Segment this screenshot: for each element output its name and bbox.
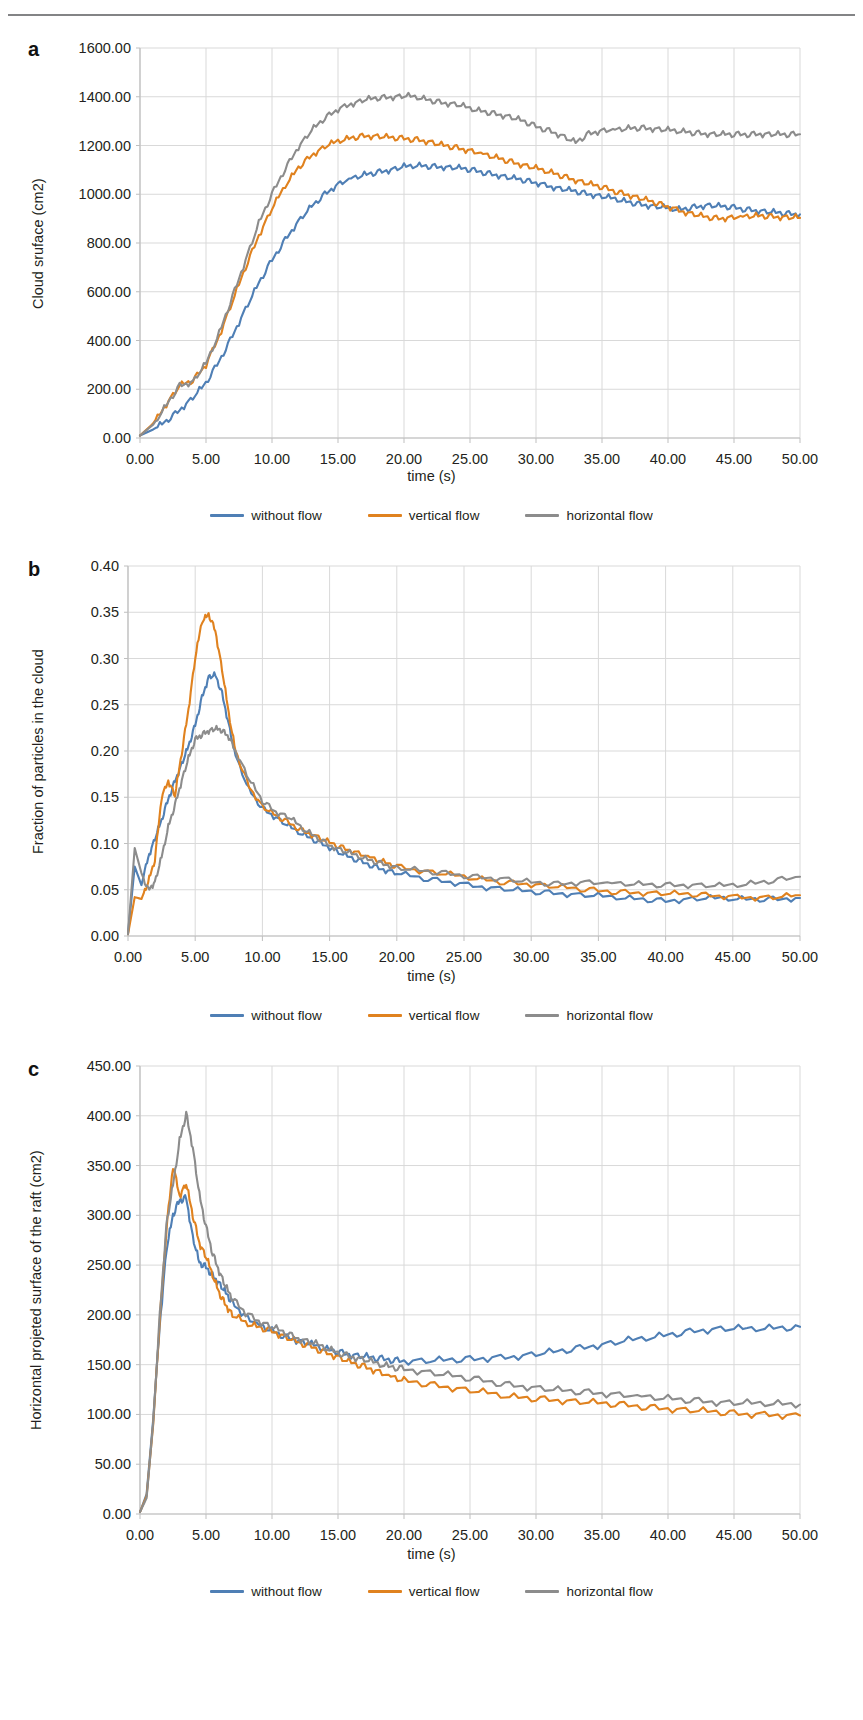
panel-b-y-tick-label-8: 0.40 — [91, 558, 119, 574]
panel-b-x-tick-label-0: 0.00 — [114, 949, 142, 965]
panel-c-legend-label-1: vertical flow — [409, 1584, 480, 1599]
panel-b-x-tick-label-7: 35.00 — [580, 949, 616, 965]
panel-c-y-tick-label-8: 400.00 — [87, 1108, 131, 1124]
panel-c-legend: without flowvertical flowhorizontal flow — [0, 1584, 863, 1599]
panel-a-y-tick-label-2: 400.00 — [87, 333, 131, 349]
panel-a-y-tick-label-4: 800.00 — [87, 235, 131, 251]
panel-a-legend-swatch-2 — [525, 514, 559, 517]
panel-a-x-tick-label-4: 20.00 — [386, 451, 422, 467]
panel-c-x-tick-label-8: 40.00 — [650, 1527, 686, 1543]
panel-b-plot: 0.000.050.100.150.200.250.300.350.400.00… — [0, 548, 863, 988]
panel-b-legend: without flowvertical flowhorizontal flow — [0, 1008, 863, 1023]
panel-a: a Cloud sruface (cm2) 0.00200.00400.0060… — [0, 30, 863, 545]
panel-c-x-tick-label-5: 25.00 — [452, 1527, 488, 1543]
panel-a-legend-vertical-flow: vertical flow — [368, 508, 480, 523]
panel-c-x-tick-label-6: 30.00 — [518, 1527, 554, 1543]
panel-b-legend-without-flow: without flow — [210, 1008, 322, 1023]
panel-b-legend-label-1: vertical flow — [409, 1008, 480, 1023]
panel-b-x-tick-label-5: 25.00 — [446, 949, 482, 965]
panel-c-legend-swatch-2 — [525, 1590, 559, 1593]
panel-c-y-tick-label-3: 150.00 — [87, 1357, 131, 1373]
panel-b-y-tick-label-2: 0.10 — [91, 836, 119, 852]
panel-c-legend-label-2: horizontal flow — [566, 1584, 652, 1599]
panel-b-x-tick-label-3: 15.00 — [311, 949, 347, 965]
panel-c-x-tick-label-4: 20.00 — [386, 1527, 422, 1543]
panel-c-y-tick-label-4: 200.00 — [87, 1307, 131, 1323]
panel-c-y-tick-label-5: 250.00 — [87, 1257, 131, 1273]
panel-c-legend-vertical-flow: vertical flow — [368, 1584, 480, 1599]
panel-c-x-tick-label-2: 10.00 — [254, 1527, 290, 1543]
figure-page: a Cloud sruface (cm2) 0.00200.00400.0060… — [0, 0, 863, 1720]
panel-c-legend-without-flow: without flow — [210, 1584, 322, 1599]
panel-a-legend-label-1: vertical flow — [409, 508, 480, 523]
panel-c-x-tick-label-10: 50.00 — [782, 1527, 818, 1543]
panel-a-x-tick-label-10: 50.00 — [782, 451, 818, 467]
panel-a-y-tick-label-1: 200.00 — [87, 381, 131, 397]
panel-c: c Horizontal projeted surface of the raf… — [0, 1048, 863, 1708]
panel-a-x-tick-label-6: 30.00 — [518, 451, 554, 467]
panel-c-x-tick-label-1: 5.00 — [192, 1527, 220, 1543]
panel-a-legend-without-flow: without flow — [210, 508, 322, 523]
panel-a-x-tick-label-1: 5.00 — [192, 451, 220, 467]
panel-a-x-tick-label-5: 25.00 — [452, 451, 488, 467]
panel-c-legend-swatch-1 — [368, 1590, 402, 1593]
panel-a-y-tick-label-7: 1400.00 — [79, 89, 131, 105]
panel-c-x-tick-label-3: 15.00 — [320, 1527, 356, 1543]
panel-b-legend-horizontal-flow: horizontal flow — [525, 1008, 652, 1023]
panel-c-y-tick-label-2: 100.00 — [87, 1406, 131, 1422]
panel-c-y-tick-label-1: 50.00 — [95, 1456, 131, 1472]
panel-a-legend-label-2: horizontal flow — [566, 508, 652, 523]
panel-a-y-tick-label-5: 1000.00 — [79, 186, 131, 202]
panel-b-y-tick-label-6: 0.30 — [91, 651, 119, 667]
panel-b-y-tick-label-5: 0.25 — [91, 697, 119, 713]
panel-c-y-tick-label-6: 300.00 — [87, 1207, 131, 1223]
panel-b-legend-label-2: horizontal flow — [566, 1008, 652, 1023]
panel-c-legend-label-0: without flow — [251, 1584, 322, 1599]
panel-b-y-tick-label-7: 0.35 — [91, 604, 119, 620]
panel-a-plot: 0.00200.00400.00600.00800.001000.001200.… — [0, 30, 863, 500]
panel-a-y-tick-label-3: 600.00 — [87, 284, 131, 300]
panel-c-x-tick-label-0: 0.00 — [126, 1527, 154, 1543]
panel-a-y-tick-label-6: 1200.00 — [79, 138, 131, 154]
panel-c-legend-swatch-0 — [210, 1590, 244, 1593]
panel-b-x-tick-label-1: 5.00 — [181, 949, 209, 965]
panel-b-x-tick-label-9: 45.00 — [715, 949, 751, 965]
panel-b-x-tick-label-2: 10.00 — [244, 949, 280, 965]
panel-a-legend-label-0: without flow — [251, 508, 322, 523]
panel-c-y-tick-label-0: 0.00 — [103, 1506, 131, 1522]
panel-a-x-tick-label-0: 0.00 — [126, 451, 154, 467]
panel-a-x-tick-label-3: 15.00 — [320, 451, 356, 467]
panel-c-plot: 0.0050.00100.00150.00200.00250.00300.003… — [0, 1048, 863, 1558]
panel-a-legend: without flowvertical flowhorizontal flow — [0, 508, 863, 523]
panel-c-x-tick-label-9: 45.00 — [716, 1527, 752, 1543]
panel-c-x-axis-title: time (s) — [0, 1546, 863, 1562]
panel-a-legend-swatch-1 — [368, 514, 402, 517]
panel-a-x-tick-label-8: 40.00 — [650, 451, 686, 467]
panel-b-x-axis-title: time (s) — [0, 968, 863, 984]
panel-b-y-tick-label-1: 0.05 — [91, 882, 119, 898]
panel-a-y-tick-label-0: 0.00 — [103, 430, 131, 446]
panel-b: b Fraction of particles in the cloud 0.0… — [0, 548, 863, 1048]
panel-b-legend-swatch-0 — [210, 1014, 244, 1017]
panel-a-x-tick-label-7: 35.00 — [584, 451, 620, 467]
panel-a-x-axis-title: time (s) — [0, 468, 863, 484]
panel-a-x-tick-label-9: 45.00 — [716, 451, 752, 467]
panel-a-legend-swatch-0 — [210, 514, 244, 517]
panel-a-x-tick-label-2: 10.00 — [254, 451, 290, 467]
panel-a-legend-horizontal-flow: horizontal flow — [525, 508, 652, 523]
panel-b-legend-label-0: without flow — [251, 1008, 322, 1023]
running-head-rule — [8, 14, 855, 16]
panel-b-legend-swatch-2 — [525, 1014, 559, 1017]
panel-b-x-tick-label-8: 40.00 — [647, 949, 683, 965]
panel-a-y-tick-label-8: 1600.00 — [79, 40, 131, 56]
panel-b-legend-swatch-1 — [368, 1014, 402, 1017]
panel-b-x-tick-label-4: 20.00 — [379, 949, 415, 965]
panel-b-x-tick-label-10: 50.00 — [782, 949, 818, 965]
panel-c-y-tick-label-9: 450.00 — [87, 1058, 131, 1074]
panel-b-y-tick-label-4: 0.20 — [91, 743, 119, 759]
panel-c-x-tick-label-7: 35.00 — [584, 1527, 620, 1543]
panel-b-legend-vertical-flow: vertical flow — [368, 1008, 480, 1023]
panel-b-y-tick-label-3: 0.15 — [91, 789, 119, 805]
panel-b-x-tick-label-6: 30.00 — [513, 949, 549, 965]
panel-c-y-tick-label-7: 350.00 — [87, 1158, 131, 1174]
